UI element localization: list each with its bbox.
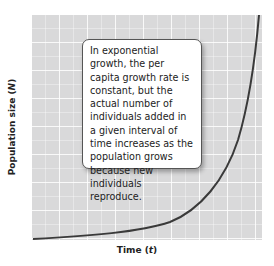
x-axis-label: Time (t) bbox=[0, 245, 274, 255]
annotation-callout: In exponential growth, the per capita gr… bbox=[82, 39, 202, 169]
y-axis-label: Population size (N) bbox=[7, 67, 17, 187]
